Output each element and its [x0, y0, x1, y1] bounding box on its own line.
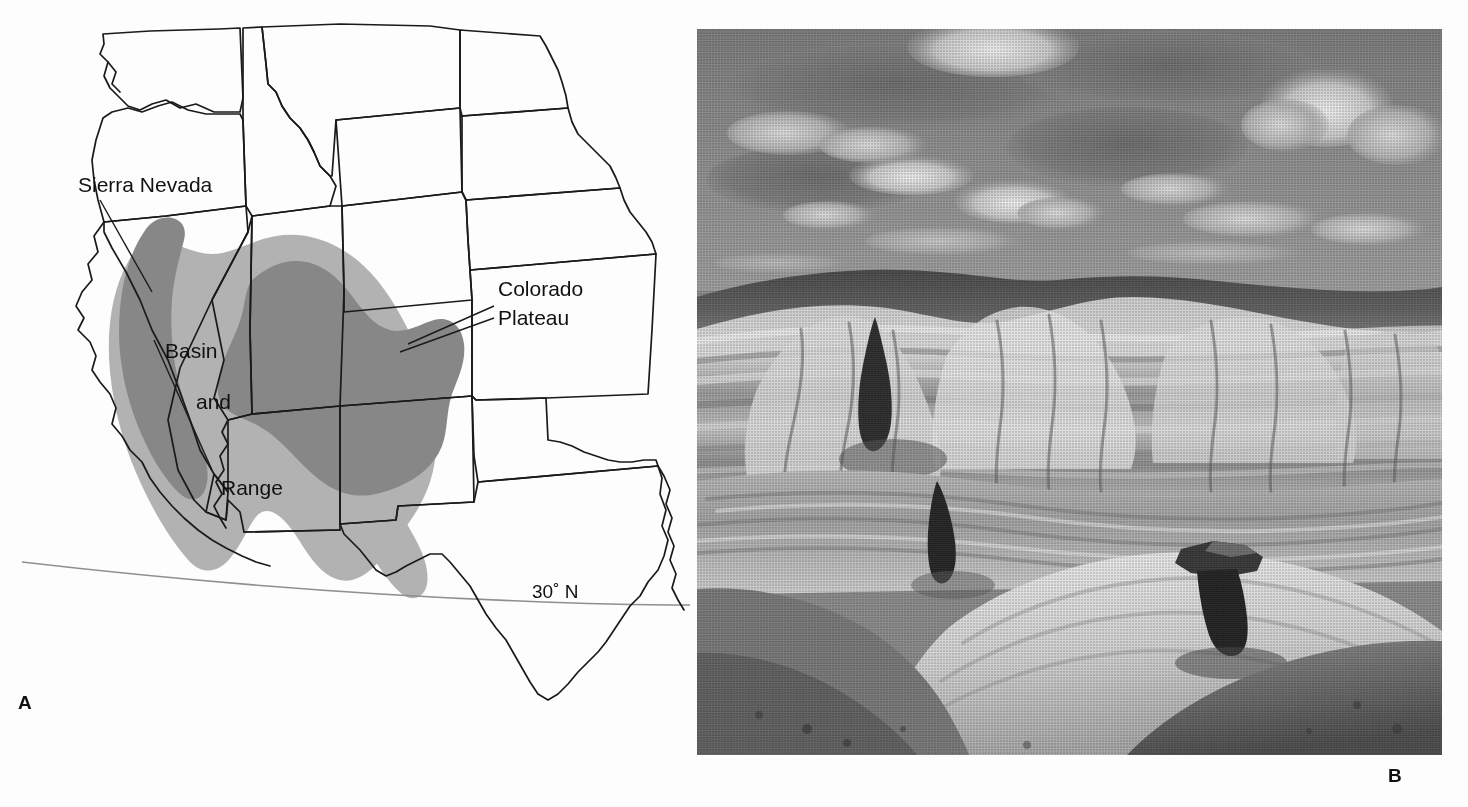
state-idaho — [243, 27, 336, 216]
hoodoo-center-shadow — [911, 571, 995, 599]
state-north-dakota — [460, 30, 568, 116]
panel-a-map: Sierra Nevada Basin and Range Colorado P… — [0, 0, 690, 807]
state-nebraska — [466, 188, 656, 270]
state-oregon — [92, 102, 246, 222]
range-label: Range — [221, 476, 283, 499]
photo-frame — [697, 29, 1442, 755]
figure-root: Sierra Nevada Basin and Range Colorado P… — [0, 0, 1468, 807]
plateau-label: Plateau — [498, 306, 569, 329]
colorado-label: Colorado — [498, 277, 583, 300]
panel-b-photograph: B — [690, 0, 1468, 807]
panel-b-letter: B — [1388, 765, 1402, 787]
badlands-photograph — [697, 29, 1442, 755]
latitude-30n-label: 30˚ N — [532, 581, 578, 602]
panel-a-letter: A — [18, 692, 32, 714]
basin-label: Basin — [165, 339, 218, 362]
state-washington — [100, 28, 243, 112]
state-south-dakota — [462, 108, 620, 200]
western-us-map: Sierra Nevada Basin and Range Colorado P… — [0, 0, 690, 760]
and-label: and — [196, 390, 231, 413]
louisiana-edge — [658, 466, 684, 610]
state-montana — [262, 24, 460, 176]
state-wyoming — [336, 108, 462, 206]
sierra-nevada-label: Sierra Nevada — [78, 173, 213, 196]
